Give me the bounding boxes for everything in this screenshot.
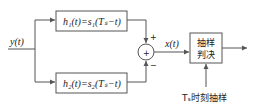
filter1-label: h₁(t)=s₁(Tₛ−t) bbox=[63, 16, 121, 28]
sum-plus-sign: + bbox=[150, 33, 157, 42]
filter2-label: h₂(t)=s₂(Tₛ−t) bbox=[63, 78, 121, 90]
matched-filter-diagram: y(t) h₁(t)=s₁(Tₛ−t) h₂(t)=s₂(Tₛ−t) + + −… bbox=[0, 0, 261, 111]
decision-line1: 抽样 bbox=[197, 37, 215, 48]
x-label: x(t) bbox=[164, 38, 180, 50]
diagram-canvas: y(t) h₁(t)=s₁(Tₛ−t) h₂(t)=s₂(Tₛ−t) + + −… bbox=[0, 0, 261, 111]
sample-label: Tₛ时刻抽样 bbox=[181, 92, 227, 103]
decision-line2: 判决 bbox=[197, 49, 215, 60]
summer-symbol: + bbox=[143, 49, 150, 58]
input-label: y(t) bbox=[9, 36, 25, 48]
sum-minus-sign: − bbox=[150, 61, 157, 70]
